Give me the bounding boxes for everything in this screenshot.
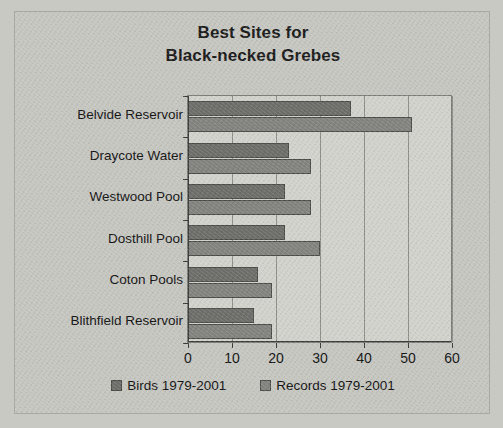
x-axis-tick-labels: 0102030405060 [187, 350, 453, 370]
legend-label-records: Records 1979-2001 [276, 378, 395, 393]
bar-birds-5 [188, 308, 254, 323]
legend-label-birds: Birds 1979-2001 [127, 378, 226, 393]
y-axis-category-labels: Belvide Reservoir Draycote Water Westwoo… [23, 95, 183, 343]
x-axis-label-40: 40 [356, 350, 372, 366]
plot-region [187, 95, 452, 343]
bar-birds-3 [188, 225, 285, 240]
gridline-40 [364, 96, 365, 342]
gridline-50 [408, 96, 409, 342]
y-axis-label-dosthill-pool: Dosthill Pool [23, 231, 183, 246]
x-tick-30 [320, 343, 321, 348]
plot-area [187, 95, 452, 343]
bar-birds-2 [188, 184, 285, 199]
x-tick-60 [452, 343, 453, 348]
chart-title: Best Sites for Black-necked Grebes [15, 21, 491, 67]
x-tick-50 [408, 343, 409, 348]
x-tick-0 [188, 343, 189, 348]
x-tick-10 [232, 343, 233, 348]
x-tick-40 [364, 343, 365, 348]
bar-birds-4 [188, 267, 258, 282]
chart-legend: Birds 1979-2001 Records 1979-2001 [15, 378, 491, 393]
gridline-60 [452, 96, 453, 342]
x-axis-label-20: 20 [268, 350, 284, 366]
x-axis-tick-marks [187, 343, 453, 349]
y-axis-label-belvide-reservoir: Belvide Reservoir [23, 107, 183, 122]
scanned-page: Best Sites for Black-necked Grebes Belvi… [0, 0, 503, 428]
y-axis-label-westwood-pool: Westwood Pool [23, 189, 183, 204]
x-axis-line [188, 341, 451, 342]
gridline-10 [232, 96, 233, 342]
y-axis-label-blithfield-reservoir: Blithfield Reservoir [23, 313, 183, 328]
chart-title-line-1: Best Sites for [15, 21, 491, 44]
bar-records-2 [188, 200, 311, 215]
x-axis-label-10: 10 [224, 350, 240, 366]
x-axis-label-60: 60 [444, 350, 460, 366]
gridline-30 [320, 96, 321, 342]
bar-records-3 [188, 241, 320, 256]
bar-birds-0 [188, 101, 351, 116]
x-axis-label-30: 30 [312, 350, 328, 366]
y-axis-label-draycote-water: Draycote Water [23, 148, 183, 163]
chart-title-line-2: Black-necked Grebes [15, 44, 491, 67]
bar-records-0 [188, 117, 412, 132]
x-tick-20 [276, 343, 277, 348]
legend-item-birds: Birds 1979-2001 [111, 378, 226, 393]
legend-item-records: Records 1979-2001 [260, 378, 395, 393]
legend-swatch-birds-icon [111, 380, 122, 391]
gridline-20 [276, 96, 277, 342]
bar-birds-1 [188, 143, 289, 158]
x-axis-label-50: 50 [400, 350, 416, 366]
bar-records-5 [188, 324, 272, 339]
legend-swatch-records-icon [260, 380, 271, 391]
y-axis-line [188, 96, 189, 342]
bar-records-4 [188, 283, 272, 298]
x-axis-label-0: 0 [184, 350, 192, 366]
bar-records-1 [188, 159, 311, 174]
chart-figure: Best Sites for Black-necked Grebes Belvi… [14, 11, 490, 414]
y-axis-label-coton-pools: Coton Pools [23, 272, 183, 287]
